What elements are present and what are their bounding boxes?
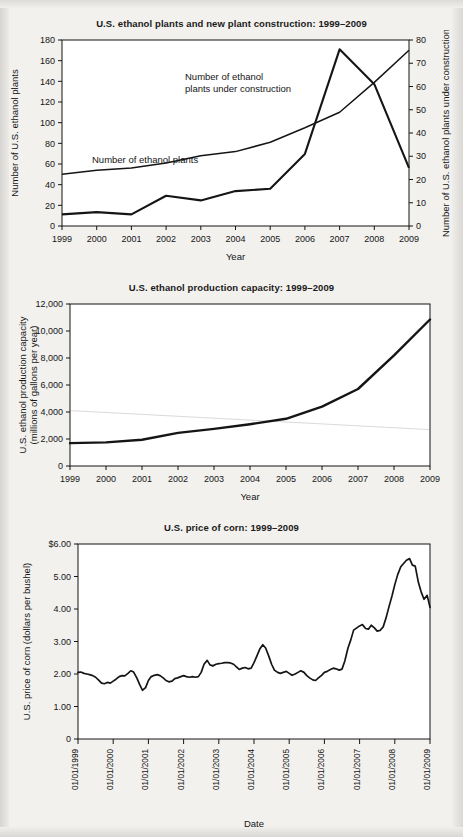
x-axis-tick-label: 2001 bbox=[132, 474, 152, 484]
x-axis-tick-label: 2000 bbox=[96, 474, 116, 484]
x-axis-tick-label: 2004 bbox=[240, 474, 260, 484]
y-axis-tick-label-left: 40 bbox=[45, 180, 55, 190]
x-axis-title: Date bbox=[244, 818, 264, 829]
chart-title-ethanol-capacity: U.S. ethanol production capacity: 1999–2… bbox=[0, 282, 463, 294]
y-axis-title-line-1: U.S. ethanol production capacity bbox=[17, 316, 28, 453]
y-axis-tick-label-left: 20 bbox=[45, 201, 55, 211]
y-axis-tick-label: 1.00 bbox=[53, 702, 71, 712]
y-axis-tick-label-left: 160 bbox=[40, 56, 55, 66]
y-axis-tick-label: 10,000 bbox=[35, 326, 63, 336]
y-axis-title-group: U.S. ethanol production capacity(million… bbox=[17, 316, 39, 453]
y-axis-tick-label: $6.00 bbox=[48, 539, 71, 549]
y-axis-tick-label-right: 10 bbox=[416, 198, 426, 208]
y-axis-tick-label-right: 60 bbox=[416, 82, 426, 92]
figure-ethanol-plants: U.S. ethanol plants and new plant constr… bbox=[0, 18, 463, 280]
x-axis-tick-label: 01/01/2007 bbox=[353, 749, 362, 790]
x-axis-tick-label: 01/01/2002 bbox=[177, 749, 186, 790]
x-axis-tick-label: 2008 bbox=[364, 234, 384, 244]
y-axis-tick-label-right: 30 bbox=[416, 151, 426, 161]
y-axis-tick-label-left: 100 bbox=[40, 118, 55, 128]
chart-title-ethanol-plants: U.S. ethanol plants and new plant constr… bbox=[0, 18, 463, 30]
x-axis-tick-label: 2002 bbox=[168, 474, 188, 484]
x-axis-tick-label: 01/01/2003 bbox=[212, 749, 221, 790]
figure-ethanol-capacity: U.S. ethanol production capacity: 1999–2… bbox=[0, 282, 463, 518]
y-axis-tick-label-left: 120 bbox=[40, 97, 55, 107]
x-axis-tick-label: 2001 bbox=[121, 234, 141, 244]
y-axis-tick-label-right: 20 bbox=[416, 175, 426, 185]
plot-area-frame bbox=[78, 544, 430, 739]
annotation-under-construction-line1: Number of ethanol bbox=[185, 71, 263, 82]
annotation-under-construction-line2: plants under construction bbox=[185, 83, 291, 94]
y-axis-title-line-2: (millions of gallons per year) bbox=[28, 326, 39, 445]
x-axis-tick-label: 2003 bbox=[191, 234, 211, 244]
x-axis-tick-label: 2009 bbox=[399, 234, 419, 244]
x-axis-tick-label: 1999 bbox=[60, 474, 80, 484]
y-axis-title-right: Number of U.S. ethanol plants under cons… bbox=[440, 30, 451, 237]
x-axis-tick-label: 01/01/2005 bbox=[282, 749, 291, 790]
x-axis-tick-label: 2005 bbox=[276, 474, 296, 484]
scanned-page: U.S. ethanol plants and new plant constr… bbox=[0, 0, 463, 837]
y-axis-tick-label-left: 60 bbox=[45, 159, 55, 169]
x-axis-tick-label: 2006 bbox=[312, 474, 332, 484]
x-axis-tick-label: 2005 bbox=[260, 234, 280, 244]
y-axis-title-left: Number of U.S. ethanol plants bbox=[9, 69, 20, 197]
x-axis-tick-label: 2003 bbox=[204, 474, 224, 484]
y-axis-tick-label-left: 0 bbox=[50, 221, 55, 231]
y-axis-tick-label-left: 80 bbox=[45, 139, 55, 149]
y-axis-tick-label-right: 80 bbox=[416, 35, 426, 45]
x-axis-title: Year bbox=[226, 251, 245, 262]
y-axis-tick-label: 3.00 bbox=[53, 637, 71, 647]
y-axis-tick-label: 2.00 bbox=[53, 669, 71, 679]
page-edge-top bbox=[0, 0, 463, 8]
y-axis-tick-label-right: 70 bbox=[416, 58, 426, 68]
y-axis-tick-label: 8,000 bbox=[40, 353, 63, 363]
y-axis-tick-label: 5.00 bbox=[53, 572, 71, 582]
x-axis-tick-label: 01/01/1999 bbox=[71, 749, 80, 790]
y-axis-tick-label-left: 140 bbox=[40, 77, 55, 87]
y-axis-tick-label: 12,000 bbox=[35, 299, 63, 309]
chart-title-corn-price: U.S. price of corn: 1999–2009 bbox=[0, 522, 463, 534]
x-axis-tick-label: 2002 bbox=[156, 234, 176, 244]
y-axis-tick-label: 6,000 bbox=[40, 380, 63, 390]
x-axis-title: Year bbox=[240, 491, 259, 502]
x-axis-tick-label: 2004 bbox=[225, 234, 245, 244]
x-axis-tick-label: 2009 bbox=[420, 474, 440, 484]
y-axis-tick-label: 4,000 bbox=[40, 407, 63, 417]
x-axis-tick-label: 1999 bbox=[52, 234, 72, 244]
y-axis-tick-label-left: 180 bbox=[40, 35, 55, 45]
y-axis-tick-label: 4.00 bbox=[53, 604, 71, 614]
annotation-ethanol-plants: Number of ethanol plants bbox=[92, 154, 198, 165]
chart-corn-price: 01.002.003.004.005.00$6.0001/01/199901/0… bbox=[0, 534, 463, 834]
y-axis-tick-label-right: 50 bbox=[416, 105, 426, 115]
chart-ethanol-capacity: 02,0004,0006,0008,00010,00012,0001999200… bbox=[0, 294, 463, 518]
y-axis-tick-label-right: 40 bbox=[416, 128, 426, 138]
x-axis-tick-label: 2007 bbox=[330, 234, 350, 244]
y-axis-title: U.S. price of corn (dollars per bushel) bbox=[21, 563, 32, 720]
x-axis-tick-label: 01/01/2009 bbox=[423, 749, 432, 790]
x-axis-tick-label: 2008 bbox=[384, 474, 404, 484]
y-axis-tick-label: 2,000 bbox=[40, 434, 63, 444]
x-axis-tick-label: 2000 bbox=[87, 234, 107, 244]
x-axis-tick-label: 01/01/2001 bbox=[141, 749, 150, 790]
x-axis-tick-label: 2007 bbox=[348, 474, 368, 484]
y-axis-tick-label: 0 bbox=[66, 734, 71, 744]
x-axis-tick-label: 01/01/2008 bbox=[388, 749, 397, 790]
y-axis-tick-label-right: 0 bbox=[416, 221, 421, 231]
x-axis-tick-label: 2006 bbox=[295, 234, 315, 244]
chart-ethanol-plants: 0204060801001201401601800102030405060708… bbox=[0, 30, 463, 280]
x-axis-tick-label: 01/01/2004 bbox=[247, 749, 256, 790]
figure-corn-price: U.S. price of corn: 1999–2009 01.002.003… bbox=[0, 522, 463, 834]
y-axis-tick-label: 0 bbox=[58, 461, 63, 471]
x-axis-tick-label: 01/01/2006 bbox=[317, 749, 326, 790]
x-axis-tick-label: 01/01/2000 bbox=[106, 749, 115, 790]
